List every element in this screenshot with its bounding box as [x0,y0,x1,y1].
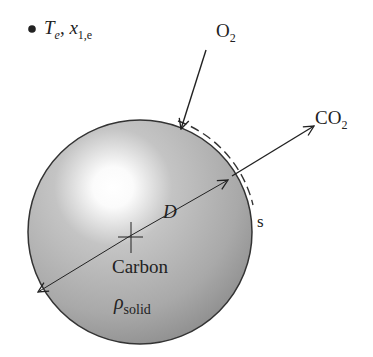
o2-arrow-icon [181,50,206,129]
surface-label: s [257,212,264,231]
co2-arrow-icon [232,126,314,176]
co2-label: CO2 [315,107,347,132]
bullet-icon [28,25,36,33]
legend-text: Te, x1,e [44,17,92,42]
diameter-label: D [162,201,177,222]
o2-label: O2 [216,20,236,45]
carbon-particle-diagram: Te, x1,e O2 CO2 s D Carbon ρsolid [0,0,373,357]
material-label: Carbon [112,256,168,277]
